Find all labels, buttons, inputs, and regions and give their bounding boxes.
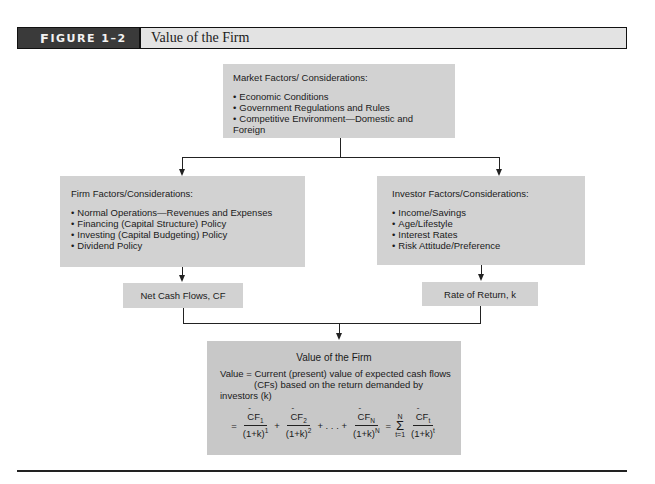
arrow-down-icon: [179, 169, 185, 176]
term-n: CFN (1+k)N: [353, 411, 380, 439]
term-2: CF2 (1+k)2: [286, 411, 312, 439]
figure-header: FIGURE 1–2 Value of the Firm: [17, 27, 627, 49]
figure-label-rest: IGURE 1–2: [50, 32, 126, 45]
plus-sign: +: [274, 420, 280, 431]
value-definition-prefix: Value =: [220, 368, 254, 379]
ellipsis: + . . . +: [317, 420, 347, 431]
list-item: Investing (Capital Budgeting) Policy: [71, 229, 294, 240]
arrow-down-icon: [478, 274, 484, 281]
figure-title: Value of the Firm: [141, 28, 626, 48]
term-summation: CFt (1+k)t: [411, 411, 435, 439]
value-definition-line2: (CFs) based on the return demanded by in…: [220, 379, 423, 401]
list-item: Income/Savings: [392, 207, 570, 218]
firm-factors-list: Normal Operations—Revenues and Expenses …: [71, 207, 294, 251]
investor-factors-box: Investor Factors/Considerations: Income/…: [377, 176, 585, 265]
list-item: Financing (Capital Structure) Policy: [71, 218, 294, 229]
market-factors-box: Market Factors/ Considerations: Economic…: [223, 64, 455, 138]
value-definition: Value = Current (present) value of expec…: [207, 368, 461, 401]
firm-factors-title: Firm Factors/Considerations:: [71, 188, 294, 199]
list-item: Competitive Environment—Domestic and For…: [233, 113, 445, 135]
connector-line: [340, 138, 341, 157]
value-of-firm-title: Value of the Firm: [207, 352, 461, 363]
rate-of-return-label: Rate of Return, k: [444, 289, 516, 300]
equals-sign: =: [231, 420, 237, 431]
list-item: Economic Conditions: [233, 91, 445, 102]
figure-label-initial: F: [40, 31, 50, 46]
list-item: Risk Attitude/Preference: [392, 240, 570, 251]
bottom-rule: [17, 470, 627, 472]
market-factors-list: Economic Conditions Government Regulatio…: [233, 91, 445, 135]
arrow-down-icon: [336, 333, 342, 340]
list-item: Age/Lifestyle: [392, 218, 570, 229]
list-item: Normal Operations—Revenues and Expenses: [71, 207, 294, 218]
net-cash-flows-box: Net Cash Flows, CF: [123, 283, 243, 308]
investor-factors-title: Investor Factors/Considerations:: [392, 188, 570, 199]
equals-sign: =: [386, 420, 392, 431]
figure-label: FIGURE 1–2: [18, 28, 141, 48]
connector-line: [183, 323, 481, 324]
value-of-firm-box: Value of the Firm Value = Current (prese…: [207, 341, 461, 455]
connector-line: [183, 308, 184, 323]
net-cash-flows-label: Net Cash Flows, CF: [141, 290, 226, 301]
list-item: Dividend Policy: [71, 240, 294, 251]
list-item: Government Regulations and Rules: [233, 102, 445, 113]
connector-line: [480, 306, 481, 323]
term-1: CF1 (1+k)1: [243, 411, 269, 439]
value-definition-line1: Current (present) value of expected cash…: [254, 368, 450, 379]
arrow-down-icon: [496, 169, 502, 176]
investor-factors-list: Income/Savings Age/Lifestyle Interest Ra…: [392, 207, 570, 251]
value-formula: = CF1 (1+k)1 + CF2 (1+k)2 + . . . + CFN …: [207, 411, 461, 439]
arrow-down-icon: [179, 275, 185, 282]
list-item: Interest Rates: [392, 229, 570, 240]
connector-line: [182, 157, 500, 158]
summation-icon: N Σ t=1: [395, 413, 405, 438]
firm-factors-box: Firm Factors/Considerations: Normal Oper…: [60, 176, 305, 267]
rate-of-return-box: Rate of Return, k: [422, 282, 538, 306]
market-factors-title: Market Factors/ Considerations:: [233, 72, 445, 83]
